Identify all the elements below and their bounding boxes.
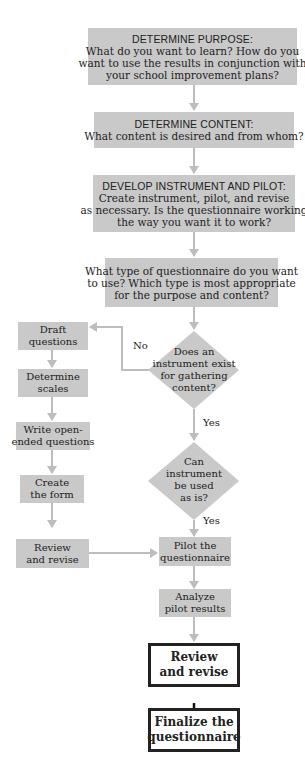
step-text: your school improvement plans?	[106, 69, 279, 81]
no-label: No	[133, 340, 148, 352]
decision-line: instrument	[150, 468, 238, 480]
step-text: Create instrument, pilot, and revise	[99, 192, 290, 204]
step-analyze-pilot-results: Analyze pilot results	[159, 589, 231, 617]
yes-label-exist: Yes	[203, 417, 220, 429]
step-determine-scales: Determine scales	[18, 369, 88, 397]
step-text: Draft	[40, 324, 66, 336]
step-pilot-questionnaire: Pilot the questionnaire	[159, 537, 231, 566]
step-text: Write open-	[23, 424, 82, 436]
step-text: pilot results	[165, 603, 226, 615]
decision-exist-text: Does an instrument exist for gathering c…	[150, 346, 238, 394]
step-questionnaire-type: What type of questionnaire do you want t…	[105, 258, 278, 307]
decision-line: be used	[150, 480, 238, 492]
decision-line: Does an	[150, 346, 238, 358]
step-review-revise-left: Review and revise	[16, 539, 89, 568]
step-text: to use? Which type is most appropriate	[87, 277, 296, 289]
step-text: as necessary. Is the questionnaire worki…	[81, 204, 305, 216]
step-text: Analyze	[175, 591, 215, 603]
step-text: Finalize the	[154, 715, 233, 730]
step-text: for the purpose and content?	[114, 289, 269, 301]
decision-line: as is?	[150, 492, 238, 504]
decision-line: instrument exist	[150, 358, 238, 370]
decision-line: for gathering	[150, 370, 238, 382]
step-text: ended questions	[12, 436, 95, 448]
step-text: Create	[35, 477, 69, 489]
step-develop-instrument: DEVELOP INSTRUMENT AND PILOT: Create ins…	[93, 175, 295, 232]
step-heading: DETERMINE CONTENT:	[134, 118, 253, 130]
step-heading: DEVELOP INSTRUMENT AND PILOT:	[102, 180, 285, 192]
step-text: What type of questionnaire do you want	[85, 265, 298, 277]
step-draft-questions: Draft questions	[18, 322, 88, 350]
step-text: and revise	[160, 665, 229, 680]
step-text: want to use the results in conjunction w…	[79, 57, 305, 69]
step-text: What do you want to learn? How do you	[86, 45, 299, 57]
step-heading: DETERMINE PURPOSE:	[132, 33, 253, 45]
step-determine-content: DETERMINE CONTENT: What content is desir…	[94, 112, 294, 148]
step-text: Review	[170, 650, 217, 665]
step-text: questionnaire	[147, 730, 240, 745]
step-text: scales	[38, 383, 69, 395]
step-text: questionnaire	[160, 552, 230, 564]
step-text: Pilot the	[174, 540, 217, 552]
decision-line: content?	[150, 382, 238, 394]
step-text: and revise	[26, 554, 79, 566]
step-text: questions	[29, 336, 78, 348]
step-text: Determine	[26, 371, 80, 383]
step-text: the form	[30, 489, 74, 501]
decision-line: Can	[150, 456, 238, 468]
decision-asis-text: Can instrument be used as is?	[150, 456, 238, 504]
step-finalize-questionnaire: Finalize the questionnaire	[148, 708, 240, 752]
step-text: Review	[34, 542, 71, 554]
step-text: the way you want it to work?	[117, 216, 271, 228]
step-determine-purpose: DETERMINE PURPOSE: What do you want to l…	[88, 28, 297, 85]
step-text: What content is desired and from whom?	[84, 130, 303, 142]
step-write-open-ended: Write open- ended questions	[16, 422, 90, 450]
step-create-form: Create the form	[20, 475, 84, 503]
step-review-revise-final: Review and revise	[148, 643, 240, 687]
yes-label-asis: Yes	[203, 515, 220, 527]
